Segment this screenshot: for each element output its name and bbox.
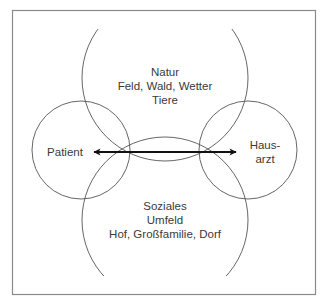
natur-line-3: Tiere [115,93,215,107]
soziales-line-2: Umfeld [100,213,230,227]
soziales-label: Soziales Umfeld Hof, Großfamilie, Dorf [100,199,230,241]
soziales-title: Soziales [100,199,230,213]
natur-line-2: Feld, Wald, Wetter [115,79,215,93]
hausarzt-label: Haus- arzt [245,138,285,166]
natur-label: Natur Feld, Wald, Wetter Tiere [115,65,215,107]
natur-title: Natur [115,65,215,79]
soziales-line-3: Hof, Großfamilie, Dorf [100,227,230,241]
patient-label: Patient [40,145,90,159]
